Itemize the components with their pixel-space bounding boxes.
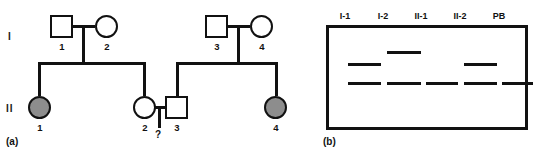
gel-band-ii-2-lower (464, 82, 497, 85)
generation-label-i: I (8, 32, 12, 42)
individual-i-4[interactable] (250, 15, 273, 38)
individual-ii-4[interactable] (264, 96, 287, 119)
individual-ii-2[interactable] (133, 96, 156, 119)
gel-band-i-1-lower (348, 82, 381, 85)
sib-drop-ii-1 (38, 62, 41, 96)
descent-line-unknown-offspring (158, 106, 161, 128)
individual-i-3[interactable] (205, 15, 228, 38)
gel-lane-label-i-1: I-1 (328, 12, 362, 21)
individual-ii-1[interactable] (28, 96, 51, 119)
unknown-offspring-marker: ? (155, 130, 161, 140)
sib-drop-ii-4 (275, 62, 278, 96)
individual-ii-4-id: 4 (264, 123, 288, 133)
individual-i-3-id: 3 (205, 42, 229, 52)
gel-band-i-2-lower (387, 82, 421, 85)
sib-drop-ii-3 (176, 62, 179, 96)
gel-band-ii-2-upper (464, 63, 497, 66)
individual-i-1[interactable] (50, 15, 73, 38)
individual-ii-2-id: 2 (133, 123, 157, 133)
gel-lane-label-ii-2: II-2 (443, 12, 477, 21)
generation-label-ii: II (6, 104, 14, 114)
descent-line-i3-i4 (237, 25, 240, 62)
mating-line-ii2-ii3 (155, 106, 167, 109)
sibship-line-right (176, 62, 278, 65)
individual-i-2[interactable] (95, 15, 118, 38)
individual-ii-3[interactable] (165, 96, 188, 119)
gel-band-pb-lower (502, 82, 533, 85)
sib-drop-ii-2 (143, 62, 146, 96)
panel-b-caption: (b) (323, 137, 336, 147)
gel-band-i-1-upper (348, 63, 381, 66)
individual-i-4-id: 4 (250, 42, 274, 52)
descent-line-i1-i2 (82, 25, 85, 62)
sibship-line-left (38, 62, 146, 65)
gel-lane-label-i-2: I-2 (366, 12, 400, 21)
gel-band-ii-1-lower (426, 82, 458, 85)
figure-root: I II 1 2 3 4 1 2 3 4 (0, 0, 541, 157)
gel-panel: I-1 I-2 II-1 II-2 PB (b) (310, 0, 541, 157)
individual-ii-1-id: 1 (28, 123, 52, 133)
gel-lane-label-pb: PB (482, 12, 516, 21)
individual-ii-3-id: 3 (165, 123, 189, 133)
individual-i-1-id: 1 (50, 42, 74, 52)
individual-i-2-id: 2 (95, 42, 119, 52)
pedigree-panel: I II 1 2 3 4 1 2 3 4 (0, 0, 310, 157)
gel-lane-label-ii-1: II-1 (404, 12, 438, 21)
gel-box (326, 25, 528, 130)
gel-band-i-2-top (387, 51, 421, 54)
panel-a-caption: (a) (6, 137, 18, 147)
